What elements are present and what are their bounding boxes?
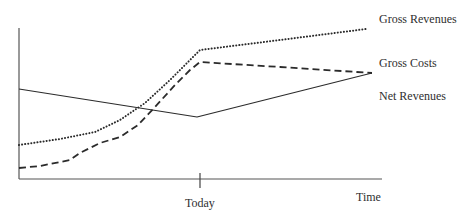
net-revenues-label: Net Revenues (379, 89, 446, 103)
x-tick-label-today: Today (185, 196, 215, 210)
gross-costs-label: Gross Costs (379, 56, 437, 70)
net-revenues-line (19, 73, 372, 117)
x-axis-label-time: Time (356, 190, 381, 204)
gross-revenues-label: Gross Revenues (379, 12, 457, 26)
series-layer (19, 29, 372, 168)
gross-costs-line (19, 62, 372, 168)
